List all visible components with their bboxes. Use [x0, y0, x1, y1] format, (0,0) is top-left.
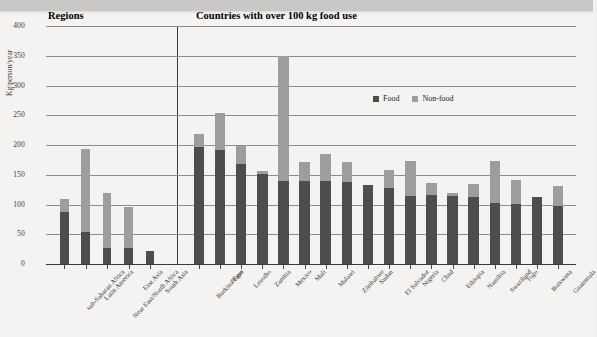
bar-segment-food [426, 195, 437, 264]
bar-segment-nonfood [405, 161, 416, 196]
bar [426, 183, 437, 264]
panel-heading-countries: Countries with over 100 kg food use [196, 10, 357, 21]
bar-segment-nonfood [81, 149, 90, 232]
bar-segment-food [384, 188, 395, 264]
bar [490, 161, 501, 264]
bar [447, 193, 458, 264]
bar [384, 170, 395, 264]
bar-segment-nonfood [60, 199, 69, 212]
y-axis-tick-label: 250 [0, 111, 25, 119]
bar-segment-nonfood [103, 193, 112, 248]
x-axis-label: sub-Saharan Africa [85, 268, 126, 311]
y-axis-tick-label: 350 [0, 52, 25, 60]
x-axis-line [46, 264, 576, 265]
bar [342, 162, 353, 264]
bar-segment-food [447, 196, 458, 264]
bar [81, 149, 90, 264]
y-axis-tick-label: 100 [0, 201, 25, 209]
legend-swatch-nonfood-icon [412, 96, 418, 102]
legend-item-food: Food [373, 94, 399, 103]
bar-segment-food [490, 203, 501, 264]
bar [511, 180, 522, 264]
x-axis-label: Malawi [336, 268, 355, 288]
bar-segment-food [146, 251, 155, 264]
y-axis-tick-label: 400 [0, 22, 25, 30]
bar-segment-nonfood [215, 113, 226, 150]
bar-segment-nonfood [320, 154, 331, 181]
gridline [46, 86, 576, 87]
legend-swatch-food-icon [373, 96, 379, 102]
x-axis-label: Niger [229, 268, 245, 284]
bar-segment-nonfood [194, 134, 205, 147]
y-axis-tick-label: 150 [0, 171, 25, 179]
panel-heading-regions: Regions [48, 10, 84, 21]
bar [236, 146, 247, 264]
bar-segment-food [342, 182, 353, 264]
y-axis-tick-label: 50 [0, 230, 25, 238]
bar-segment-nonfood [299, 162, 310, 181]
bar [103, 193, 112, 264]
bar-segment-food [320, 181, 331, 264]
y-axis-tick-label: 300 [0, 82, 25, 90]
bar-segment-food [194, 147, 205, 264]
bar-segment-nonfood [384, 170, 395, 188]
bar [320, 154, 331, 264]
bar [194, 134, 205, 264]
bar [215, 113, 226, 264]
bar-segment-food [124, 248, 133, 264]
bar [60, 199, 69, 264]
bar-segment-nonfood [278, 56, 289, 181]
bar-segment-nonfood [490, 161, 501, 203]
bar-segment-food [532, 197, 543, 264]
bar-segment-food [278, 181, 289, 264]
bar-segment-nonfood [342, 162, 353, 182]
bar-segment-food [257, 174, 268, 264]
bar [124, 207, 133, 264]
chart-legend: Food Non-food [373, 94, 454, 103]
gridline [46, 26, 576, 27]
bar [363, 185, 374, 264]
bar-segment-food [468, 197, 479, 264]
x-axis-label: Mali [313, 268, 327, 282]
legend-label-food: Food [383, 94, 399, 103]
gridline [46, 145, 576, 146]
bar-segment-food [81, 232, 90, 264]
bar-segment-food [236, 164, 247, 264]
y-axis-tick-label: 0 [0, 260, 25, 268]
bar-segment-food [215, 150, 226, 264]
x-axis-label: Mexico [294, 268, 313, 288]
x-axis-label: Lesotho [252, 268, 272, 289]
bar [553, 186, 564, 264]
bar-segment-nonfood [236, 146, 247, 164]
bar [299, 162, 310, 264]
x-axis-label: Namibia [485, 268, 506, 290]
gridline [46, 115, 576, 116]
bar [532, 197, 543, 264]
bar-segment-food [103, 248, 112, 264]
bar [257, 171, 268, 264]
x-axis-label: Botswana [550, 268, 573, 292]
bar-segment-nonfood [468, 184, 479, 197]
bar-segment-food [363, 185, 374, 264]
legend-item-nonfood: Non-food [412, 94, 453, 103]
x-axis-label: Ethiopia [464, 268, 485, 290]
bar [468, 184, 479, 264]
bar [146, 251, 155, 264]
gridline [46, 56, 576, 57]
bar-segment-nonfood [426, 183, 437, 195]
legend-label-nonfood: Non-food [422, 94, 453, 103]
x-axis-label: Chad [440, 268, 455, 283]
x-axis-label: Guatemala [572, 268, 597, 294]
bar-segment-food [405, 196, 416, 264]
bar [405, 161, 416, 264]
bar [278, 56, 289, 264]
bar-segment-food [511, 204, 522, 264]
chart-plot-area: 050100150200250300350400 [46, 26, 576, 264]
bar-segment-nonfood [553, 186, 564, 206]
bar-segment-food [553, 206, 564, 264]
y-axis-tick-label: 200 [0, 141, 25, 149]
bar-segment-nonfood [511, 180, 522, 204]
bar-segment-food [60, 212, 69, 264]
x-axis-labels: sub-Saharan AfricaLatin AmericaNear East… [46, 268, 576, 337]
